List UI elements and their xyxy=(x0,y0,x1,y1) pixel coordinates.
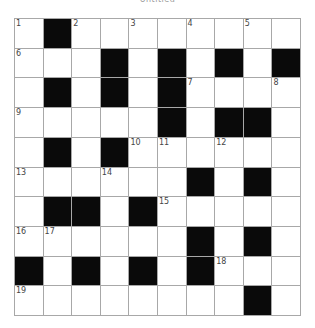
crossword-cell[interactable] xyxy=(72,227,101,257)
crossword-cell[interactable] xyxy=(101,19,130,49)
crossword-cell[interactable] xyxy=(72,138,101,168)
crossword-cell[interactable] xyxy=(44,286,73,316)
crossword-cell[interactable]: 13 xyxy=(15,168,44,198)
crossword-cell[interactable]: 7 xyxy=(187,78,216,108)
crossword-cell[interactable] xyxy=(101,257,130,287)
clue-number: 14 xyxy=(102,168,112,177)
crossword-cell[interactable] xyxy=(215,227,244,257)
crossword-cell[interactable]: 8 xyxy=(272,78,301,108)
crossword-cell[interactable] xyxy=(72,49,101,79)
clue-number: 9 xyxy=(16,108,21,117)
black-square xyxy=(244,168,273,198)
black-square xyxy=(215,49,244,79)
crossword-cell[interactable] xyxy=(272,197,301,227)
crossword-cell[interactable]: 18 xyxy=(215,257,244,287)
clue-number: 12 xyxy=(216,138,226,147)
black-square xyxy=(244,108,273,138)
clue-number: 17 xyxy=(45,227,55,236)
black-square xyxy=(158,49,187,79)
crossword-cell[interactable] xyxy=(244,78,273,108)
crossword-cell[interactable]: 11 xyxy=(158,138,187,168)
crossword-cell[interactable] xyxy=(272,108,301,138)
crossword-cell[interactable]: 4 xyxy=(187,19,216,49)
crossword-cell[interactable]: 19 xyxy=(15,286,44,316)
black-square xyxy=(215,108,244,138)
crossword-cell[interactable] xyxy=(215,168,244,198)
crossword-cell[interactable] xyxy=(101,227,130,257)
crossword-cell[interactable] xyxy=(244,197,273,227)
crossword-cell[interactable] xyxy=(72,78,101,108)
crossword-cell[interactable]: 2 xyxy=(72,19,101,49)
crossword-cell[interactable] xyxy=(187,138,216,168)
crossword-cell[interactable] xyxy=(101,286,130,316)
crossword-cell[interactable] xyxy=(215,78,244,108)
crossword-cell[interactable]: 17 xyxy=(44,227,73,257)
crossword-cell[interactable]: 16 xyxy=(15,227,44,257)
black-square xyxy=(44,197,73,227)
crossword-cell[interactable] xyxy=(129,49,158,79)
crossword-cell[interactable]: 1 xyxy=(15,19,44,49)
crossword-cell[interactable]: 15 xyxy=(158,197,187,227)
crossword-cell[interactable] xyxy=(272,257,301,287)
crossword-cell[interactable] xyxy=(215,286,244,316)
crossword-cell[interactable] xyxy=(272,138,301,168)
clue-number: 7 xyxy=(188,78,193,87)
black-square xyxy=(158,108,187,138)
crossword-cell[interactable]: 12 xyxy=(215,138,244,168)
black-square xyxy=(158,78,187,108)
black-square xyxy=(101,138,130,168)
black-square xyxy=(187,257,216,287)
crossword-cell[interactable] xyxy=(244,257,273,287)
crossword-cell[interactable]: 5 xyxy=(244,19,273,49)
black-square xyxy=(44,19,73,49)
black-square xyxy=(244,286,273,316)
crossword-cell[interactable] xyxy=(129,78,158,108)
crossword-cell[interactable] xyxy=(72,168,101,198)
crossword-cell[interactable] xyxy=(72,286,101,316)
crossword-cell[interactable] xyxy=(215,19,244,49)
black-square xyxy=(44,138,73,168)
crossword-cell[interactable] xyxy=(187,286,216,316)
clue-number: 1 xyxy=(16,19,21,28)
crossword-cell[interactable]: 9 xyxy=(15,108,44,138)
crossword-cell[interactable] xyxy=(158,286,187,316)
crossword-cell[interactable] xyxy=(72,108,101,138)
crossword-cell[interactable]: 10 xyxy=(129,138,158,168)
crossword-cell[interactable] xyxy=(101,108,130,138)
crossword-cell[interactable] xyxy=(158,19,187,49)
black-square xyxy=(244,227,273,257)
crossword-cell[interactable] xyxy=(15,197,44,227)
crossword-cell[interactable] xyxy=(44,257,73,287)
crossword-cell[interactable] xyxy=(272,168,301,198)
crossword-cell[interactable] xyxy=(129,286,158,316)
crossword-cell[interactable] xyxy=(272,19,301,49)
black-square xyxy=(187,168,216,198)
crossword-cell[interactable] xyxy=(129,227,158,257)
crossword-cell[interactable] xyxy=(44,108,73,138)
crossword-cell[interactable] xyxy=(158,227,187,257)
crossword-cell[interactable] xyxy=(158,257,187,287)
crossword-cell[interactable] xyxy=(244,49,273,79)
crossword-cell[interactable] xyxy=(101,197,130,227)
clue-number: 5 xyxy=(245,19,250,28)
crossword-cell[interactable] xyxy=(15,138,44,168)
crossword-cell[interactable] xyxy=(158,168,187,198)
crossword-cell[interactable] xyxy=(129,168,158,198)
crossword-cell[interactable]: 6 xyxy=(15,49,44,79)
black-square xyxy=(187,227,216,257)
crossword-cell[interactable]: 14 xyxy=(101,168,130,198)
crossword-cell[interactable] xyxy=(272,227,301,257)
crossword-cell[interactable] xyxy=(187,197,216,227)
crossword-cell[interactable] xyxy=(44,168,73,198)
crossword-cell[interactable] xyxy=(187,49,216,79)
crossword-cell[interactable] xyxy=(44,49,73,79)
crossword-cell[interactable] xyxy=(244,138,273,168)
black-square xyxy=(15,257,44,287)
crossword-cell[interactable] xyxy=(272,286,301,316)
crossword-cell[interactable] xyxy=(187,108,216,138)
crossword-cell[interactable] xyxy=(129,108,158,138)
crossword-cell[interactable]: 3 xyxy=(129,19,158,49)
crossword-cell[interactable] xyxy=(15,78,44,108)
crossword-cell[interactable] xyxy=(215,197,244,227)
black-square xyxy=(272,49,301,79)
